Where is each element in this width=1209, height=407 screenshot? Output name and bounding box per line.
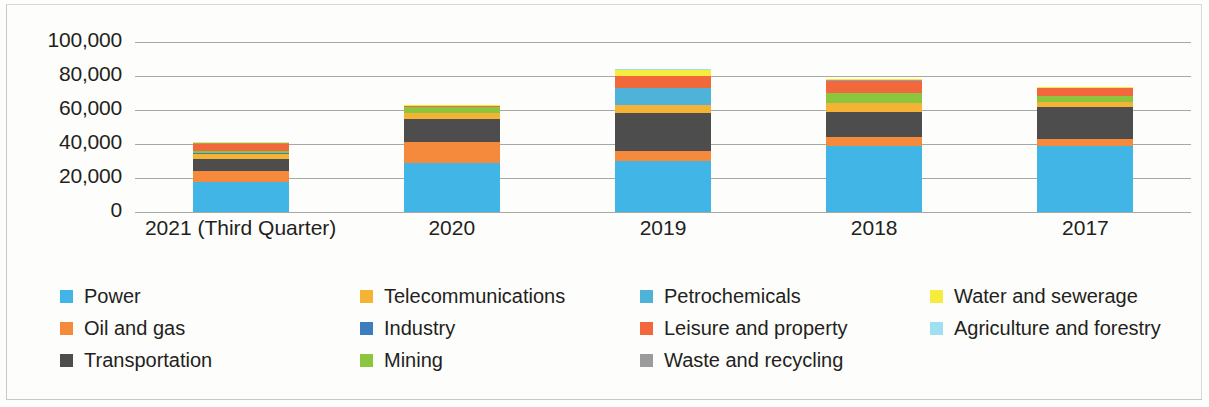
bar-segment[interactable] xyxy=(826,103,922,112)
bar-segment[interactable] xyxy=(826,93,922,103)
x-axis-tick-label: 2017 xyxy=(1062,216,1109,240)
legend-swatch-industry xyxy=(360,322,373,335)
legend-item-label: Mining xyxy=(384,349,443,372)
bar-segment[interactable] xyxy=(1037,88,1133,97)
legend-item-label: Oil and gas xyxy=(84,317,185,340)
gridline xyxy=(135,212,1191,213)
legend-item[interactable]: Leisure and property xyxy=(640,317,930,340)
legend-swatch-leisure-and-property xyxy=(640,322,653,335)
y-axis-labels: 020,00040,00060,00080,000100,000 xyxy=(0,42,122,212)
legend-swatch-agriculture-and-forestry xyxy=(930,322,943,335)
legend-item[interactable]: Waste and recycling xyxy=(640,349,930,372)
bar-segment[interactable] xyxy=(1037,107,1133,139)
chart-legend: PowerTelecommunicationsPetrochemicalsWat… xyxy=(60,280,1180,376)
x-axis-tick-label: 2018 xyxy=(851,216,898,240)
x-axis-tick-label: 2020 xyxy=(428,216,475,240)
bar-segment[interactable] xyxy=(404,142,500,162)
y-axis-tick-label: 100,000 xyxy=(47,28,122,52)
bar-segment[interactable] xyxy=(404,163,500,212)
legend-item[interactable]: Petrochemicals xyxy=(640,285,930,308)
stacked-bar[interactable] xyxy=(404,105,500,212)
bar-segment[interactable] xyxy=(826,146,922,212)
legend-item-label: Industry xyxy=(384,317,455,340)
legend-item-label: Water and sewerage xyxy=(954,285,1138,308)
bar-segment[interactable] xyxy=(193,144,289,151)
legend-item[interactable]: Telecommunications xyxy=(360,285,640,308)
legend-item-label: Leisure and property xyxy=(664,317,847,340)
legend-swatch-telecommunications xyxy=(360,290,373,303)
legend-item-label: Transportation xyxy=(84,349,212,372)
legend-swatch-transportation xyxy=(60,354,73,367)
legend-item[interactable]: Power xyxy=(60,285,360,308)
stacked-bar[interactable] xyxy=(1037,87,1133,212)
bar-segment[interactable] xyxy=(1037,139,1133,146)
y-axis-tick-label: 60,000 xyxy=(59,96,122,120)
y-axis-tick-label: 0 xyxy=(111,198,122,222)
bar-segment[interactable] xyxy=(615,161,711,212)
frame-border-top xyxy=(6,4,1202,5)
x-axis-tick-label: 2021 (Third Quarter) xyxy=(145,216,336,240)
bar-segment[interactable] xyxy=(1037,146,1133,212)
legend-item[interactable]: Industry xyxy=(360,317,640,340)
bar-segment[interactable] xyxy=(615,151,711,161)
legend-item[interactable]: Water and sewerage xyxy=(930,285,1180,308)
gridline xyxy=(135,42,1191,43)
bar-segment[interactable] xyxy=(826,137,922,146)
frame-border-bottom xyxy=(6,399,1202,400)
y-axis-tick-label: 40,000 xyxy=(59,130,122,154)
bar-segment[interactable] xyxy=(826,112,922,138)
legend-item[interactable]: Agriculture and forestry xyxy=(930,317,1180,340)
legend-swatch-waste-and-recycling xyxy=(640,354,653,367)
legend-item[interactable]: Transportation xyxy=(60,349,360,372)
y-axis-tick-label: 20,000 xyxy=(59,164,122,188)
legend-item-label: Power xyxy=(84,285,141,308)
stacked-bar[interactable] xyxy=(826,79,922,212)
chart-page: 020,00040,00060,00080,000100,000 2021 (T… xyxy=(0,0,1209,407)
bar-segment[interactable] xyxy=(193,159,289,171)
y-axis-tick-label: 80,000 xyxy=(59,62,122,86)
bar-segment[interactable] xyxy=(615,76,711,88)
legend-item-label: Telecommunications xyxy=(384,285,565,308)
plot-area xyxy=(135,42,1191,212)
legend-swatch-mining xyxy=(360,354,373,367)
legend-item-label: Agriculture and forestry xyxy=(954,317,1161,340)
legend-item-label: Petrochemicals xyxy=(664,285,801,308)
legend-swatch-power xyxy=(60,290,73,303)
legend-swatch-oil-and-gas xyxy=(60,322,73,335)
stacked-bar[interactable] xyxy=(615,69,711,212)
bar-segment[interactable] xyxy=(615,113,711,150)
x-axis-labels: 2021 (Third Quarter)2020201920182017 xyxy=(135,216,1191,248)
legend-swatch-water-and-sewerage xyxy=(930,290,943,303)
stacked-bar[interactable] xyxy=(193,142,289,212)
bar-segment[interactable] xyxy=(615,105,711,114)
bar-segment[interactable] xyxy=(404,107,500,114)
legend-item[interactable]: Mining xyxy=(360,349,640,372)
bar-segment[interactable] xyxy=(826,81,922,93)
bar-segment[interactable] xyxy=(404,119,500,143)
bar-segment[interactable] xyxy=(193,171,289,182)
legend-swatch-petrochemicals xyxy=(640,290,653,303)
legend-item-label: Waste and recycling xyxy=(664,349,843,372)
bar-segment[interactable] xyxy=(193,182,289,212)
frame-border-right xyxy=(1201,4,1202,400)
bar-segment[interactable] xyxy=(615,88,711,105)
x-axis-tick-label: 2019 xyxy=(640,216,687,240)
legend-item[interactable]: Oil and gas xyxy=(60,317,360,340)
